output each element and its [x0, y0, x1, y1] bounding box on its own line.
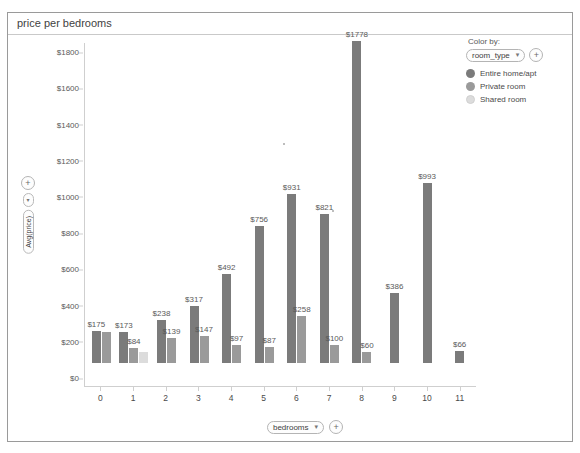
bar[interactable]: $993: [423, 183, 432, 363]
bar-wrap: $97: [232, 43, 241, 363]
bar-wrap: $386: [390, 43, 399, 363]
bar[interactable]: $147: [200, 336, 209, 363]
x-axis-field-label: bedrooms: [273, 423, 309, 432]
bar-group: $66: [443, 43, 476, 363]
x-axis-tick-label: 10: [411, 387, 444, 411]
y-axis-field-pill[interactable]: Avg(price): [23, 210, 34, 254]
title-bar: price per bedrooms: [8, 13, 572, 35]
chevron-down-icon[interactable]: ▾: [315, 423, 319, 431]
x-axis-tick-label: 5: [247, 387, 280, 411]
x-axis-tick-label: 7: [313, 387, 346, 411]
add-x-field-button[interactable]: +: [329, 420, 343, 434]
x-axis-tick-label: 2: [149, 387, 182, 411]
y-axis-tick-mark: [79, 125, 83, 126]
bar[interactable]: $258: [297, 316, 306, 363]
legend-items: Entire home/apt Private room Shared room: [466, 69, 564, 104]
bar-wrap: $993: [423, 43, 432, 363]
y-axis-tick-label: $200: [61, 337, 85, 346]
x-axis-tick-label: 9: [378, 387, 411, 411]
bar-wrap: $66: [455, 43, 464, 363]
y-axis-tick-label: $400: [61, 301, 85, 310]
bar-wrap: $173: [119, 43, 128, 363]
y-axis-tick-mark: [79, 52, 83, 53]
color-by-panel: Color by: room_type ▾ + Entire home/apt …: [466, 37, 564, 108]
y-axis-tick-label: $1400: [57, 120, 85, 129]
bar-value-label: $139: [163, 327, 181, 336]
bar-group: $1778$60: [346, 43, 379, 363]
bar-group: $756$87: [248, 43, 281, 363]
x-axis-tick-label: 8: [345, 387, 378, 411]
bar-wrap: $147: [200, 43, 209, 363]
x-axis-field-pill[interactable]: bedrooms ▾: [267, 421, 324, 434]
bar[interactable]: $100: [330, 345, 339, 363]
bar[interactable]: $97: [232, 345, 241, 363]
legend-label: Private room: [480, 82, 525, 91]
y-axis-tick-label: $0: [70, 374, 85, 383]
x-axis-tick-label: 3: [182, 387, 215, 411]
bar-group: $931$258: [280, 43, 313, 363]
bar-value-label: $258: [293, 305, 311, 314]
bar-value-label: $97: [230, 334, 243, 343]
y-axis-tick-mark: [79, 306, 83, 307]
plot-area: $0$200$400$600$800$1000$1200$1400$1600$1…: [84, 43, 476, 387]
x-axis-tick-label: 4: [215, 387, 248, 411]
bar-value-label: $100: [325, 334, 343, 343]
y-axis-tick-mark: [79, 269, 83, 270]
color-by-label: Color by:: [468, 37, 564, 46]
bar[interactable]: $175: [92, 331, 101, 363]
bar-wrap: [139, 43, 148, 363]
bar[interactable]: $931: [287, 194, 296, 363]
bar-wrap: $175: [92, 43, 101, 363]
bar[interactable]: [102, 332, 111, 363]
bar-wrap: $60: [362, 43, 371, 363]
legend-item-shared-room[interactable]: Shared room: [466, 95, 564, 104]
bar-wrap: $139: [167, 43, 176, 363]
bar-group: $993: [411, 43, 444, 363]
bar[interactable]: $60: [362, 352, 371, 363]
add-y-field-button[interactable]: +: [21, 176, 35, 190]
bar-wrap: $492: [222, 43, 231, 363]
bar[interactable]: $84: [129, 348, 138, 363]
bar-value-label: $87: [262, 336, 275, 345]
y-axis-tick-mark: [79, 378, 83, 379]
bar-wrap: $100: [330, 43, 339, 363]
legend-item-private-room[interactable]: Private room: [466, 82, 564, 91]
chevron-down-icon[interactable]: ▾: [516, 51, 520, 59]
x-axis-tick-label: 1: [117, 387, 150, 411]
bar[interactable]: $87: [265, 347, 274, 363]
y-field-chevron-down-icon[interactable]: ▾: [23, 193, 34, 207]
bar-value-label: $993: [418, 172, 436, 181]
y-axis-tick-label: $1200: [57, 156, 85, 165]
y-axis-tick-label: $800: [61, 229, 85, 238]
legend-item-entire-home[interactable]: Entire home/apt: [466, 69, 564, 78]
bar[interactable]: $492: [222, 274, 231, 363]
bar[interactable]: $139: [167, 338, 176, 363]
bar-wrap: $317: [190, 43, 199, 363]
y-axis-tick-label: $1000: [57, 192, 85, 201]
bar-wrap: $258: [297, 43, 306, 363]
bar-group: $175: [85, 43, 118, 363]
room-type-field-label: room_type: [472, 51, 510, 60]
bar-wrap: $821: [320, 43, 329, 363]
bar-value-label: $386: [386, 282, 404, 291]
add-color-field-button[interactable]: +: [529, 48, 543, 62]
bar-value-label: $147: [195, 325, 213, 334]
bar-wrap: $87: [265, 43, 274, 363]
y-axis-tick-label: $1800: [57, 48, 85, 57]
bar-group: $173$84: [118, 43, 151, 363]
bar-group: $238$139: [150, 43, 183, 363]
y-axis-tick-mark: [79, 197, 83, 198]
y-axis-tick-mark: [79, 88, 83, 89]
bar-group: $821$100: [313, 43, 346, 363]
x-axis-controls: bedrooms ▾ +: [8, 420, 572, 434]
bar[interactable]: $1778: [352, 41, 361, 363]
bar-wrap: $1778: [352, 43, 361, 363]
bar-wrap: $931: [287, 43, 296, 363]
y-axis-controls: + ▾ Avg(price): [21, 176, 35, 254]
y-axis-tick-mark: [79, 342, 83, 343]
bar-wrap: [102, 43, 111, 363]
bar[interactable]: $66: [455, 351, 464, 363]
bar[interactable]: [139, 352, 148, 363]
bar-value-label: $66: [453, 340, 466, 349]
bar[interactable]: $386: [390, 293, 399, 363]
